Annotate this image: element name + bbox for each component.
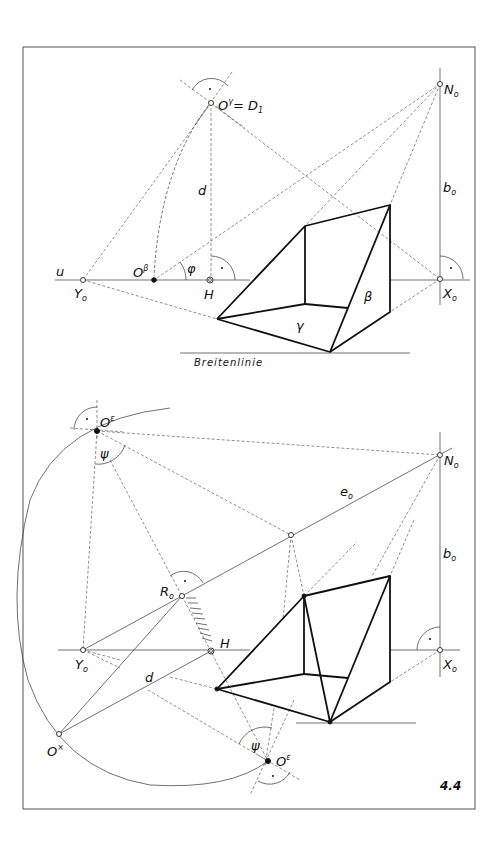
e0-line — [182, 448, 452, 596]
label-d: d — [145, 670, 154, 685]
right-angle-dot — [221, 267, 223, 269]
point-n0 — [438, 82, 443, 87]
label-n0: No — [444, 453, 459, 470]
right-angle-arc-r0 — [170, 571, 203, 583]
dash-to-oeps-bottom — [148, 690, 268, 761]
right-angle-dot — [272, 775, 274, 777]
label-d: d — [198, 183, 207, 198]
bottom-prism-edge — [304, 674, 348, 678]
right-angle-arc-x0 — [417, 627, 440, 650]
hatching-r0-h — [186, 598, 212, 641]
point-prism-d — [328, 720, 332, 724]
dash-e0mid-down — [283, 535, 291, 620]
bottom-panel: Oε ψ No eo bo Ro H Yo Xo d O× ψ Oε — [17, 400, 460, 795]
point-prism-a — [215, 687, 219, 691]
label-ox: O× — [47, 743, 64, 759]
right-angle-dot — [209, 88, 211, 90]
dash-x0-f — [390, 650, 440, 682]
dash-oeps-y0 — [83, 431, 97, 650]
top-panel: u Oγ= D1 No bo d Oβ φ H Yo Xo γ β Breite… — [55, 68, 470, 368]
right-angle-arc-oeps-bottom — [258, 772, 290, 784]
point-y0 — [81, 648, 86, 653]
point-y0 — [81, 278, 86, 283]
point-r0 — [180, 594, 185, 599]
phi-arc — [180, 262, 186, 280]
point-x0 — [438, 648, 443, 653]
point-x0 — [438, 277, 443, 282]
label-psi-top: ψ — [100, 446, 109, 461]
label-ogamma: Oγ= D1 — [218, 97, 263, 115]
point-h — [207, 277, 213, 283]
dash-n0-c — [390, 84, 440, 205]
label-h: H — [204, 287, 214, 302]
point-oeps-bottom — [266, 759, 271, 764]
bottom-prism-diagonal — [304, 596, 330, 722]
label-b0: bo — [443, 546, 456, 563]
dash-n0-obeta — [154, 84, 440, 280]
top-prism-edge — [330, 205, 390, 352]
label-breitenlinie: Breitenlinie — [194, 357, 263, 368]
top-prism-edge — [305, 304, 348, 308]
right-angle-dot — [450, 267, 452, 269]
point-prism-b — [302, 594, 306, 598]
right-angle-dot — [86, 418, 88, 420]
label-x0: Xo — [442, 286, 457, 303]
label-phi: φ — [187, 261, 196, 276]
construction-circle-arc — [17, 408, 268, 786]
point-obeta — [152, 278, 157, 283]
dash-n0-c2 — [390, 520, 414, 576]
label-oeps-top: Oε — [100, 414, 115, 430]
y0-r0-line — [83, 596, 182, 650]
label-y0: Yo — [75, 657, 88, 674]
label-b0: bo — [443, 180, 456, 197]
label-beta-face: β — [363, 289, 372, 304]
label-psi-bottom: ψ — [251, 738, 260, 753]
right-angle-dot — [184, 580, 186, 582]
figure-number: 4.4 — [439, 779, 461, 793]
label-h: H — [220, 636, 230, 651]
point-oeps-top — [95, 429, 100, 434]
label-r0: Ro — [160, 584, 174, 601]
point-h — [208, 648, 214, 654]
right-angle-arc-oeps-top — [74, 407, 97, 430]
figure-frame — [23, 47, 475, 809]
point-e0-mid — [289, 533, 294, 538]
bottom-prism-edge — [330, 576, 390, 722]
point-ox — [57, 732, 62, 737]
dash-n0-b — [305, 84, 440, 226]
dash-ogamma-y0 — [83, 103, 211, 280]
dash-y0-short — [83, 650, 120, 668]
label-u: u — [56, 264, 64, 279]
point-n0 — [438, 453, 443, 458]
dash-y0-short2 — [83, 650, 120, 660]
dash-to-a — [170, 677, 217, 689]
dash-y0-a — [83, 280, 217, 319]
dash-oeps-e0mid — [97, 431, 291, 535]
right-angle-dot — [429, 638, 431, 640]
dash-e0mid-b — [291, 535, 304, 596]
label-obeta: Oβ — [133, 264, 148, 280]
label-x0: Xo — [442, 657, 457, 674]
label-e0: eo — [340, 484, 353, 501]
label-oeps-bottom: Oε — [276, 753, 291, 769]
label-y0: Yo — [74, 286, 87, 303]
label-n0: No — [444, 82, 459, 99]
perspective-construction-diagram: u Oγ= D1 No bo d Oβ φ H Yo Xo γ β Breite… — [0, 0, 504, 852]
point-ogamma — [209, 101, 214, 106]
dash-b-ext — [304, 542, 357, 596]
label-gamma-face: γ — [296, 318, 305, 333]
dash-oeps-r0 — [110, 460, 182, 596]
dash-ogamma-x0 — [211, 103, 440, 279]
dash-oeps-n0 — [97, 431, 440, 455]
dash-r0-oeps-bottom — [182, 596, 268, 761]
dash-x0-f — [390, 279, 440, 312]
